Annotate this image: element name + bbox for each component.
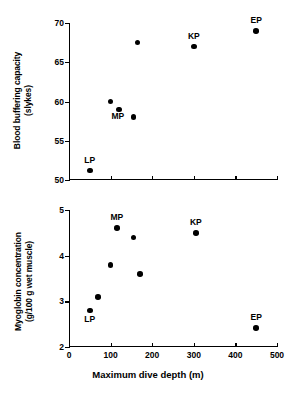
y-tick-top-55 [65,141,69,142]
scatter-figure: Blood buffering capacity (slykes) 505560… [0,0,296,393]
data-point-ep [253,28,259,34]
y-axis-label-bottom-line1: Myoglobin concentration [13,232,23,331]
data-point-kp [191,44,197,50]
y-tick-top-70 [65,23,69,24]
data-point [135,40,141,46]
x-tick-bot-300 [194,343,195,347]
x-tick-label-bot-300: 300 [187,350,201,360]
y-axis-label-top-line1: Blood buffering capacity [13,52,23,149]
data-point-label-lp-bot: LP [84,314,95,324]
y-tick-label-top-60: 60 [55,97,64,107]
x-tick-label-bot-200: 200 [145,350,159,360]
x-axis-title: Maximum dive depth (m) [0,369,296,380]
x-axis-line-bottom [69,346,277,347]
data-point-kp [193,230,199,236]
data-point-mp [114,225,120,231]
y-axis-label-top-units: (slykes) [23,52,34,149]
y-tick-label-top-50: 50 [55,175,64,185]
data-point-label-ep-top: EP [251,15,262,25]
y-tick-bot-5 [65,210,69,211]
x-tick-bot-200 [152,343,153,347]
y-axis-label-bottom: Myoglobin concentration (g/100 g wet mus… [6,206,40,356]
y-tick-label-top-55: 55 [55,136,64,146]
plot-area-top: 5055606570LPMPKPEP [69,23,277,180]
x-tick-bot-400 [235,343,236,347]
x-axis-line-top [69,179,277,180]
data-point-label-lp-top: LP [84,155,95,165]
x-tick-label-bot-500: 500 [270,350,284,360]
y-axis-label-bottom-units: (g/100 g wet muscle) [23,232,34,331]
data-point [95,294,101,300]
y-axis-line-top [69,23,70,181]
x-tick-label-bot-0: 0 [67,350,72,360]
y-tick-label-bot-2: 2 [59,342,64,352]
chart-panel-blood-buffering: Blood buffering capacity (slykes) 505560… [0,0,296,196]
data-point-lp [87,308,93,314]
y-tick-bot-2 [65,347,69,348]
y-tick-top-60 [65,102,69,103]
x-tick-top-400 [235,176,236,180]
x-tick-top-200 [152,176,153,180]
data-point-lp [87,168,93,174]
data-point [131,114,137,120]
data-point-label-ep-bot: EP [251,312,262,322]
y-tick-label-bot-3: 3 [59,296,64,306]
x-tick-bot-100 [111,343,112,347]
data-point [131,235,137,241]
chart-panel-myoglobin: Myoglobin concentration (g/100 g wet mus… [0,196,296,393]
x-tick-top-500 [277,176,278,180]
x-tick-top-100 [111,176,112,180]
y-axis-line-bottom [69,210,70,348]
y-axis-label-top: Blood buffering capacity (slykes) [6,18,40,183]
y-tick-label-top-70: 70 [55,18,64,28]
data-point [108,262,114,268]
data-point-ep [253,325,259,331]
y-tick-label-top-65: 65 [55,57,64,67]
x-tick-top-300 [194,176,195,180]
data-point-label-kp-bot: KP [190,217,202,227]
y-tick-top-65 [65,62,69,63]
data-point-label-mp-top: MP [112,111,125,121]
y-tick-label-bot-5: 5 [59,205,64,215]
y-tick-label-bot-4: 4 [59,251,64,261]
x-tick-bot-500 [277,343,278,347]
y-tick-bot-3 [65,301,69,302]
y-tick-top-50 [65,180,69,181]
data-point [108,99,114,105]
x-tick-label-bot-100: 100 [104,350,118,360]
y-tick-bot-4 [65,256,69,257]
data-point [137,271,143,277]
plot-area-bottom: 23450100200300400500LPMPKPEP [69,210,277,347]
x-tick-label-bot-400: 400 [228,350,242,360]
data-point-label-kp-top: KP [188,31,200,41]
data-point-label-mp-bot: MP [110,212,123,222]
